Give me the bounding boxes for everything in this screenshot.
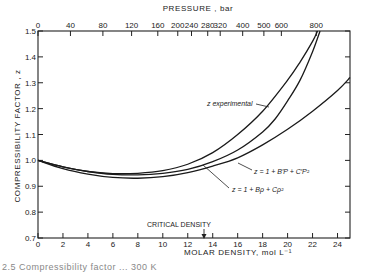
y-tick-label: 1.1	[25, 131, 37, 140]
x-tick-label: 0	[36, 240, 41, 249]
y-tick-label: 0.8	[25, 208, 37, 217]
top-tick-label: 240	[185, 21, 199, 30]
critical-density-label: CRITICAL DENSITY	[147, 221, 211, 228]
top-tick-label: 800	[310, 21, 324, 30]
top-tick-label: 600	[275, 21, 289, 30]
y-axis-title: COMPRESSIBILITY FACTOR , z	[13, 69, 22, 202]
y-tick-label: 1.3	[25, 79, 37, 88]
label-virial-density: z = 1 + Bρ + Cρ²	[231, 186, 284, 194]
x-tick-label: 4	[86, 240, 91, 249]
y-tick-label: 0.7	[25, 234, 37, 243]
top-tick-label: 80	[98, 21, 107, 30]
leader-virial-density	[203, 165, 229, 188]
x-axis-title: MOLAR DENSITY, mol L⁻¹	[184, 248, 292, 257]
x-tick-label: 2	[61, 240, 66, 249]
label-virial-pressure: z = 1 + B′P + C′P²	[253, 168, 310, 175]
top-tick-label: 160	[151, 21, 165, 30]
x-tick-label: 6	[111, 240, 116, 249]
top-axis-title: PRESSURE , bar	[163, 4, 234, 13]
top-tick-label: 0	[36, 21, 41, 30]
compressibility-chart: 0246810121416182022240.70.80.91.01.11.21…	[0, 0, 365, 273]
x-tick-label: 22	[308, 240, 317, 249]
y-tick-label: 1.0	[25, 156, 37, 165]
top-tick-label: 500	[257, 21, 271, 30]
top-tick-label: 40	[66, 21, 75, 30]
x-tick-label: 10	[158, 240, 167, 249]
top-tick-label: 200	[171, 21, 185, 30]
top-tick-label: 400	[236, 21, 250, 30]
label-z-experimental: z experimental	[206, 100, 253, 108]
plot-curves	[38, 31, 350, 178]
series-line-1	[38, 31, 320, 175]
x-tick-label: 24	[333, 240, 342, 249]
series-line-0	[38, 31, 318, 174]
y-tick-label: 1.2	[25, 105, 37, 114]
leader-virial-pressure	[238, 163, 252, 170]
plot-axes: 0246810121416182022240.70.80.91.01.11.21…	[25, 21, 350, 249]
y-tick-label: 1.4	[25, 53, 37, 62]
plot-frame	[38, 31, 350, 238]
figure-caption: 2.5 Compressibility factor ... 300 K	[2, 262, 157, 272]
series-line-2	[38, 78, 350, 179]
y-tick-label: 0.9	[25, 182, 37, 191]
x-tick-label: 8	[136, 240, 141, 249]
top-tick-label: 320	[214, 21, 228, 30]
top-tick-label: 120	[125, 21, 139, 30]
